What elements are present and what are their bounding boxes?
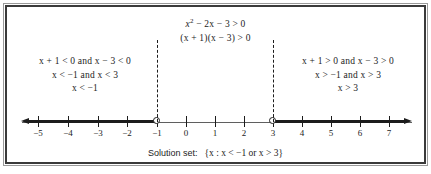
axis-tick-4 — [302, 116, 303, 127]
axis-tick--4 — [68, 116, 69, 127]
axis-tick-2 — [244, 116, 245, 127]
axis-tick-label--1: −1 — [145, 128, 169, 138]
axis-tick-label-5: 5 — [319, 128, 343, 138]
left-case-row-1: x + 1 < 0 and x − 3 < 0 — [14, 56, 156, 66]
axis-tick-label--3: −3 — [86, 128, 110, 138]
axis-tick-1 — [215, 116, 216, 127]
factored-inequality-line: (x + 1)(x − 3) > 0 — [0, 27, 431, 45]
solution-set-label: Solution set: — [148, 148, 198, 158]
inequality-number-line-figure: x2 − 2x − 3 > 0 (x + 1)(x − 3) > 0 x + 1… — [0, 0, 431, 174]
right-case-row-1: x + 1 > 0 and x − 3 > 0 — [276, 56, 420, 66]
dashed-guide-3 — [273, 40, 274, 122]
axis-tick-6 — [360, 116, 361, 127]
solution-set-notation: {x : x < −1 or x > 3} — [205, 148, 284, 158]
left-case-row-2: x < −1 and x < 3 — [14, 70, 156, 80]
axis-tick-label-2: 2 — [232, 128, 256, 138]
axis-tick-0 — [186, 116, 187, 127]
axis-tick-7 — [389, 116, 390, 127]
right-case-block: x + 1 > 0 and x − 3 > 0 x > −1 and x > 3… — [276, 56, 420, 97]
axis-tick-label-1: 1 — [203, 128, 227, 138]
axis-tick-label-7: 7 — [377, 128, 401, 138]
axis-tick-label--2: −2 — [115, 128, 139, 138]
left-ray — [26, 120, 157, 123]
factored-inequality-text: (x + 1)(x − 3) > 0 — [180, 33, 250, 43]
solution-set-caption: Solution set:{x : x < −1 or x > 3} — [0, 142, 431, 160]
axis-tick--5 — [38, 116, 39, 127]
axis-tick-label-0: 0 — [174, 128, 198, 138]
right-ray — [273, 120, 406, 123]
right-case-row-2: x > −1 and x > 3 — [276, 70, 420, 80]
axis-tick-5 — [331, 116, 332, 127]
axis-tick--2 — [127, 116, 128, 127]
axis-tick-label-6: 6 — [348, 128, 372, 138]
axis-tick-label-4: 4 — [290, 128, 314, 138]
dashed-guide--1 — [157, 40, 158, 122]
axis-tick-label--4: −4 — [56, 128, 80, 138]
left-case-row-3: x < −1 — [14, 83, 156, 93]
left-case-block: x + 1 < 0 and x − 3 < 0 x < −1 and x < 3… — [14, 56, 156, 97]
axis-tick--3 — [98, 116, 99, 127]
axis-tick-label--5: −5 — [26, 128, 50, 138]
axis-tick-label-3: 3 — [261, 128, 285, 138]
right-case-row-3: x > 3 — [276, 83, 420, 93]
